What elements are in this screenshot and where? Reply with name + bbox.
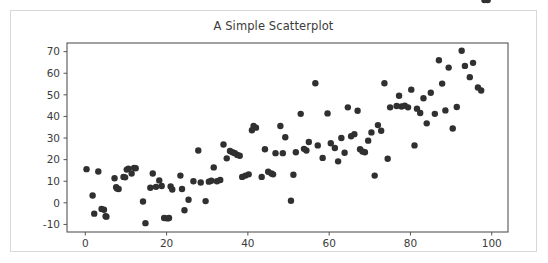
- data-point: [303, 147, 309, 153]
- data-point: [185, 197, 191, 203]
- data-point: [83, 166, 89, 172]
- x-tick-label: 80: [404, 237, 417, 249]
- data-point: [442, 107, 448, 113]
- data-point: [365, 137, 371, 143]
- y-tick-label: 60: [47, 67, 60, 79]
- data-point: [217, 177, 223, 183]
- data-point: [354, 108, 360, 114]
- data-point: [315, 142, 321, 148]
- data-point: [290, 172, 296, 178]
- data-point: [424, 120, 430, 126]
- data-point: [384, 156, 390, 162]
- data-point: [319, 155, 325, 161]
- data-point: [417, 110, 423, 116]
- data-point: [89, 192, 95, 198]
- data-point: [458, 48, 464, 54]
- data-point: [95, 168, 101, 174]
- data-point: [345, 104, 351, 110]
- data-point: [351, 131, 357, 137]
- data-point: [198, 179, 204, 185]
- data-point: [405, 104, 411, 110]
- data-point: [298, 111, 304, 117]
- data-point: [253, 124, 259, 130]
- data-point: [166, 215, 172, 221]
- data-point: [111, 175, 117, 181]
- data-point: [371, 172, 377, 178]
- y-tick-label: 30: [47, 132, 60, 144]
- data-point: [467, 74, 473, 80]
- data-point: [277, 123, 283, 129]
- data-point: [478, 87, 484, 93]
- data-point: [262, 146, 268, 152]
- data-point: [439, 80, 445, 86]
- data-point: [103, 213, 109, 219]
- x-tick-label: 0: [82, 237, 89, 249]
- y-axis-ticks: -10010203040506070: [43, 45, 67, 230]
- data-point: [375, 122, 381, 128]
- data-point: [293, 149, 299, 155]
- data-point: [338, 135, 344, 141]
- data-point: [436, 57, 442, 63]
- y-tick-label: 40: [47, 110, 60, 122]
- data-point: [220, 141, 226, 147]
- y-tick-label: 50: [47, 89, 60, 101]
- x-tick-label: 20: [160, 237, 173, 249]
- data-point: [140, 198, 146, 204]
- x-tick-label: 100: [482, 237, 502, 249]
- data-point: [101, 207, 107, 213]
- data-point: [381, 80, 387, 86]
- y-tick-label: -10: [43, 218, 60, 230]
- data-point: [470, 60, 476, 66]
- data-point: [450, 125, 456, 131]
- data-point: [132, 165, 138, 171]
- x-axis-ticks: 020406080100: [82, 232, 502, 249]
- data-point: [312, 80, 318, 86]
- data-point: [462, 63, 468, 69]
- data-point: [258, 174, 264, 180]
- data-point: [396, 93, 402, 99]
- data-point: [245, 171, 251, 177]
- data-point: [362, 149, 368, 155]
- x-tick-label: 40: [241, 237, 254, 249]
- data-point: [445, 64, 451, 70]
- data-point: [190, 178, 196, 184]
- data-point: [432, 111, 438, 117]
- data-point: [428, 89, 434, 95]
- data-point: [387, 104, 393, 110]
- data-point: [378, 127, 384, 133]
- data-point: [91, 210, 97, 216]
- data-point: [420, 95, 426, 101]
- data-point: [368, 129, 374, 135]
- data-point: [128, 170, 134, 176]
- x-tick-label: 60: [322, 237, 335, 249]
- data-point: [270, 171, 276, 177]
- y-tick-label: 70: [47, 45, 60, 57]
- data-point: [208, 178, 214, 184]
- data-point: [306, 139, 312, 145]
- data-point: [408, 86, 414, 92]
- data-point: [332, 145, 338, 151]
- data-point: [237, 153, 243, 159]
- data-point: [142, 220, 148, 226]
- data-points-layer: [83, 0, 491, 226]
- data-point: [341, 150, 347, 156]
- data-point: [195, 147, 201, 153]
- data-point: [324, 110, 330, 116]
- data-point: [202, 198, 208, 204]
- scatter-plot: 020406080100 -10010203040506070: [0, 0, 548, 263]
- data-point: [150, 170, 156, 176]
- data-point: [159, 183, 165, 189]
- data-point: [181, 207, 187, 213]
- data-point: [122, 174, 128, 180]
- data-point: [177, 172, 183, 178]
- data-point: [179, 186, 185, 192]
- data-point: [288, 197, 294, 203]
- data-point: [153, 184, 159, 190]
- data-point: [282, 134, 288, 140]
- data-point: [272, 150, 278, 156]
- data-point: [454, 104, 460, 110]
- y-tick-label: 20: [47, 153, 60, 165]
- data-point: [115, 186, 121, 192]
- data-point: [211, 164, 217, 170]
- data-point: [224, 155, 230, 161]
